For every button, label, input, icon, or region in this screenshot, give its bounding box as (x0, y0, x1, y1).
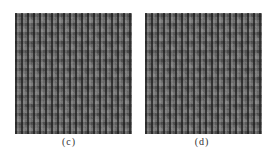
figure-panel-d (145, 13, 262, 134)
panel-d-caption: (d) (172, 136, 232, 147)
panel-c-caption: (c) (39, 136, 99, 147)
figure-panel-c (15, 13, 132, 134)
